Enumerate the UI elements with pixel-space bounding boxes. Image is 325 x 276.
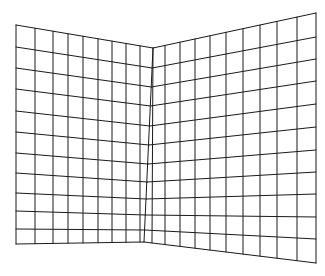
grid-horizontal-line: [145, 230, 316, 239]
grid-horizontal-line: [16, 47, 152, 68]
grid-horizontal-line: [151, 81, 316, 106]
grid-horizontal-line: [16, 132, 149, 145]
grid-horizontal-line: [150, 104, 316, 126]
grid-horizontal-line: [149, 127, 316, 145]
grid-horizontal-line: [153, 13, 316, 48]
grid-horizontal-line: [146, 215, 316, 217]
grid-horizontal-line: [16, 173, 147, 182]
grid-horizontal-line: [147, 172, 316, 182]
grid-horizontal-line: [16, 68, 151, 87]
grid-horizontal-line: [16, 153, 148, 164]
perspective-grid-figure: [0, 0, 325, 276]
left-wall-grid: [16, 25, 153, 244]
grid-vertical-line: [152, 48, 153, 243]
grid-horizontal-line: [16, 25, 153, 48]
grid-horizontal-line: [146, 194, 316, 199]
grid-horizontal-line: [16, 193, 146, 199]
right-wall-grid: [144, 13, 316, 263]
grid-drawing: [0, 0, 325, 276]
grid-horizontal-line: [148, 150, 316, 164]
grid-horizontal-line: [144, 242, 316, 263]
